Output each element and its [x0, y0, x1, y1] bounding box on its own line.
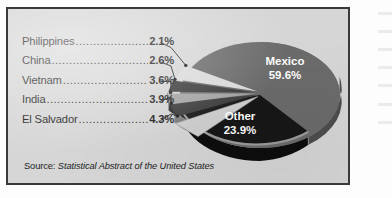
legend-value-el-salvador: 4.3% [149, 113, 174, 125]
pie-label-mexico-value: 59.6% [269, 69, 302, 81]
source-prefix: Source: [24, 161, 55, 171]
legend-row-vietnam: Vietnam 3.6% [22, 74, 174, 93]
legend: Philippines 2.1% China 2.6% Vietnam 3.6%… [22, 35, 174, 132]
legend-row-india: India 3.9% [22, 93, 174, 112]
pie-slice-el-salvador [176, 97, 258, 137]
pie-slice-mexico [184, 42, 340, 148]
source-note: Source: Statistical Abstract of the Unit… [24, 161, 214, 171]
scan-page-background: Mexico 59.6% Other 23.9% Philippines 2.1… [0, 0, 392, 198]
pie-slice-other-edge-highlight [180, 108, 308, 145]
legend-dot-leader [63, 74, 149, 86]
legend-dot-leader [51, 54, 148, 66]
pie-slice-china [168, 81, 257, 93]
legend-value-india: 3.9% [149, 93, 174, 105]
legend-label-india: India [22, 93, 46, 105]
legend-label-china: China [22, 54, 50, 66]
pie-slice-india [169, 95, 257, 117]
legend-label-vietnam: Vietnam [22, 74, 62, 86]
pie-label-other-value: 23.9% [224, 124, 257, 136]
pie-slice-philippines [175, 66, 257, 92]
pie-wall-mexico [308, 77, 341, 145]
pie-top-face [180, 42, 340, 148]
source-title: Statistical Abstract of the United State… [58, 161, 214, 171]
page-edge-text-artifact [378, 8, 392, 138]
legend-dot-leader [75, 35, 148, 47]
figure-frame: Mexico 59.6% Other 23.9% Philippines 2.1… [6, 7, 350, 185]
pie-wall-el-salvador [174, 112, 198, 136]
legend-value-vietnam: 3.6% [149, 74, 174, 86]
legend-dot-leader [79, 113, 149, 125]
legend-value-china: 2.6% [149, 54, 174, 66]
pie-slice-vietnam [167, 93, 257, 104]
pie-label-other-name: Other [225, 110, 256, 122]
legend-dot-leader [47, 93, 149, 105]
pie-label-mexico-name: Mexico [266, 55, 305, 67]
legend-label-el-salvador: El Salvador [22, 113, 78, 125]
legend-row-el-salvador: El Salvador 4.3% [22, 113, 174, 132]
pie-wall-other [180, 95, 308, 161]
legend-row-philippines: Philippines 2.1% [22, 35, 174, 54]
pie-slice-other [180, 95, 308, 145]
legend-value-philippines: 2.1% [149, 35, 174, 47]
legend-row-china: China 2.6% [22, 54, 174, 73]
legend-label-philippines: Philippines [22, 35, 74, 47]
